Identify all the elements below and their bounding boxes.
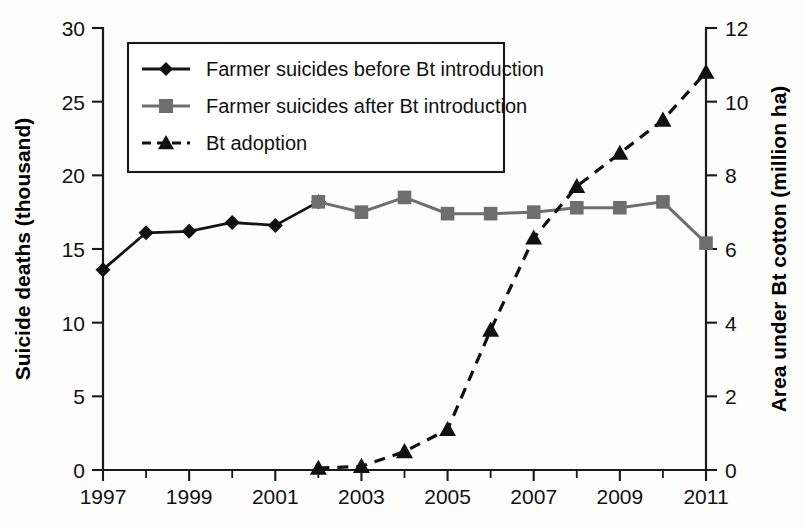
y-axis-left-tick-labels: 051015202530 (62, 17, 85, 482)
y-axis-left-ticks (92, 28, 103, 470)
chart-container: 19971999200120032005200720092011 0510152… (0, 0, 805, 528)
y-tick-label-right: 2 (725, 385, 737, 408)
data-point-square (398, 191, 412, 205)
y-tick-label-right: 10 (725, 91, 748, 114)
y-tick-label-right: 12 (725, 17, 748, 40)
data-point-triangle (525, 229, 542, 244)
legend-label: Bt adoption (206, 132, 307, 154)
y-axis-left-title: Suicide deaths (thousand) (11, 118, 34, 381)
x-tick-label: 2009 (596, 485, 643, 508)
legend-label: Farmer suicides after Bt introduction (206, 95, 527, 117)
data-point-triangle (396, 443, 413, 458)
data-point-diamond (225, 215, 240, 230)
series-line (103, 202, 318, 270)
y-tick-label-right: 8 (725, 164, 737, 187)
data-point-square (441, 207, 455, 221)
x-tick-label: 2003 (338, 485, 385, 508)
data-point-triangle (353, 458, 370, 473)
x-tick-label: 2005 (424, 485, 471, 508)
series-1 (96, 194, 326, 277)
data-point-square (656, 195, 670, 209)
y-tick-label-left: 20 (62, 164, 85, 187)
data-point-square (699, 236, 713, 250)
data-point-square (159, 99, 173, 113)
line-chart: 19971999200120032005200720092011 0510152… (0, 0, 805, 528)
y-tick-label-left: 25 (62, 91, 85, 114)
data-point-diamond (268, 218, 283, 233)
data-point-square (312, 195, 326, 209)
y-tick-label-left: 30 (62, 17, 85, 40)
data-point-square (527, 205, 541, 219)
data-point-square (355, 205, 369, 219)
data-point-square (613, 201, 627, 215)
data-point-square (570, 201, 584, 215)
x-tick-label: 1997 (80, 485, 127, 508)
y-axis-right-title: Area under Bt cotton (million ha) (767, 86, 790, 413)
y-tick-label-left: 10 (62, 312, 85, 335)
y-tick-label-right: 6 (725, 238, 737, 261)
chart-legend: Farmer suicides before Bt introductionFa… (128, 43, 544, 172)
y-tick-label-left: 5 (73, 385, 85, 408)
series-2 (312, 191, 713, 250)
data-point-square (484, 207, 498, 221)
data-point-triangle (482, 322, 499, 337)
x-tick-label: 2001 (252, 485, 299, 508)
data-point-triangle (654, 112, 671, 127)
y-axis-right-tick-labels: 024681012 (725, 17, 748, 482)
data-point-diamond (182, 224, 197, 239)
legend-label: Farmer suicides before Bt introduction (206, 58, 544, 80)
x-tick-label: 1999 (166, 485, 213, 508)
x-tick-label: 2011 (683, 485, 728, 508)
y-tick-label-left: 15 (62, 238, 85, 261)
y-tick-label-left: 0 (73, 459, 85, 482)
data-point-triangle (698, 64, 715, 79)
y-tick-label-right: 4 (725, 312, 737, 335)
x-tick-label: 2007 (510, 485, 557, 508)
y-tick-label-right: 0 (725, 459, 737, 482)
x-axis-ticks (103, 470, 706, 481)
data-point-triangle (439, 421, 456, 436)
series-line (318, 197, 706, 243)
x-axis-tick-labels: 19971999200120032005200720092011 (80, 485, 729, 508)
